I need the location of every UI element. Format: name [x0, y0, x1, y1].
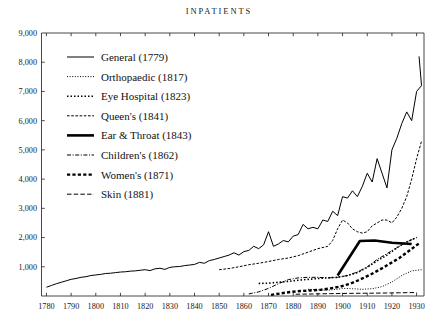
x-tick-label: 1910 — [359, 302, 375, 311]
x-tick-label: 1930 — [408, 302, 424, 311]
plot-axes — [42, 33, 425, 296]
x-tick-label: 1800 — [88, 302, 104, 311]
y-tick-label: 7,000 — [19, 87, 37, 96]
x-tick-label: 1790 — [63, 302, 79, 311]
legend-label: Queen's (1841) — [101, 110, 168, 123]
y-tick-label: 1,000 — [19, 263, 37, 272]
y-axis-ticks: 1,0002,0003,0004,0005,0006,0007,0008,000… — [19, 29, 45, 272]
series-line-women-s — [271, 243, 419, 294]
x-tick-label: 1820 — [137, 302, 153, 311]
legend-label: Skin (1881) — [101, 188, 154, 201]
x-tick-label: 1880 — [285, 302, 301, 311]
x-tick-label: 1900 — [334, 302, 350, 311]
series-line-orthopaedic — [308, 270, 422, 290]
legend-label: Women's (1871) — [101, 169, 174, 182]
x-tick-label: 1870 — [260, 302, 276, 311]
x-tick-label: 1850 — [211, 302, 227, 311]
y-tick-label: 8,000 — [19, 58, 37, 67]
series-line-eye-hospital — [259, 238, 417, 284]
y-tick-label: 6,000 — [19, 117, 37, 126]
series-line-skin — [296, 292, 417, 294]
chart-legend: General (1779)Orthopaedic (1817)Eye Hosp… — [67, 51, 192, 201]
chart-figure: INPATIENTS 1,0002,0003,0004,0005,0006,00… — [0, 0, 436, 325]
legend-label: General (1779) — [101, 51, 168, 64]
legend-label: Orthopaedic (1817) — [101, 71, 188, 84]
legend-label: Ear & Throat (1843) — [101, 129, 192, 142]
legend-label: Children's (1862) — [101, 149, 178, 162]
legend-label: Eye Hospital (1823) — [101, 90, 191, 103]
x-tick-label: 1890 — [310, 302, 326, 311]
y-tick-label: 5,000 — [19, 146, 37, 155]
x-axis-ticks: 1780179018001810182018301840185018601870… — [38, 33, 425, 311]
y-tick-label: 3,000 — [19, 204, 37, 213]
x-tick-label: 1780 — [38, 302, 54, 311]
y-tick-label: 9,000 — [19, 29, 37, 38]
x-tick-label: 1830 — [162, 302, 178, 311]
x-tick-label: 1860 — [236, 302, 252, 311]
x-tick-label: 1840 — [186, 302, 202, 311]
x-tick-label: 1810 — [112, 302, 128, 311]
x-tick-label: 1920 — [384, 302, 400, 311]
inpatients-line-chart: 1,0002,0003,0004,0005,0006,0007,0008,000… — [0, 0, 436, 325]
y-tick-label: 2,000 — [19, 233, 37, 242]
y-tick-label: 4,000 — [19, 175, 37, 184]
